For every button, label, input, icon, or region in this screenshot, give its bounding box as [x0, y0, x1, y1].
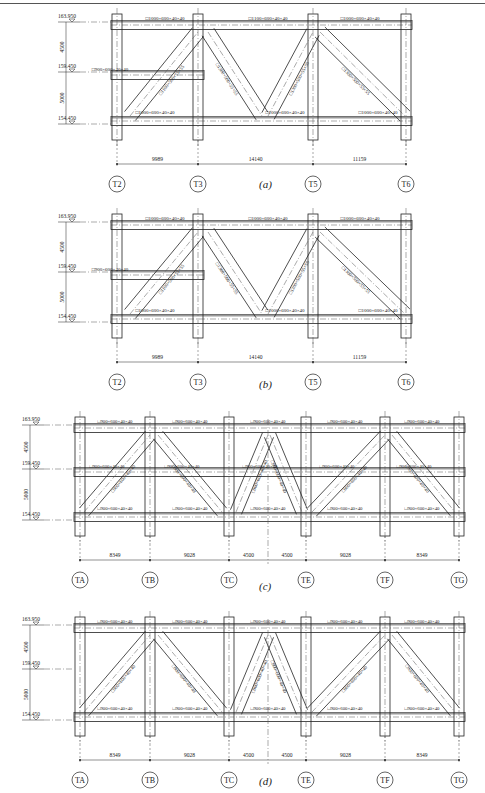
axis-marker-T6: T6: [398, 176, 414, 192]
axis-marker-TC: TC: [221, 772, 237, 788]
top-chord-label: □900×600×40×40: [98, 419, 134, 424]
axis-marker-TC: TC: [221, 572, 237, 588]
top-chord-label: □1100×600×40×40: [249, 16, 288, 21]
top-chord-label: □900×600×40×40: [251, 619, 287, 624]
span-dimension: 9989: [152, 156, 163, 162]
caption-b: (b): [259, 378, 272, 390]
axis-label: T3: [194, 180, 203, 189]
axis-label: TF: [380, 776, 390, 785]
span-dimension: 9989: [152, 354, 163, 360]
bottom-chord-label: □900×600×40×40: [405, 506, 441, 511]
elevation-label: 154.450: [22, 511, 40, 517]
mid-chord-label: □900×600×40×40: [165, 464, 201, 469]
elevation-label: 159.450: [58, 63, 76, 69]
axis-marker-T2: T2: [109, 176, 125, 192]
elevation-marker-icon: [69, 269, 75, 272]
top-chord-label: □1000×600×40×40: [249, 216, 288, 221]
top-chord-label: □900×600×40×40: [405, 619, 441, 624]
axis-marker-TE: TE: [298, 772, 314, 788]
axis-label: T2: [113, 378, 122, 387]
top-chord-label: □1000×600×40×40: [341, 216, 380, 221]
level-dimension: 5000: [59, 92, 65, 103]
caption-a: (a): [259, 178, 272, 190]
axis-marker-TB: TB: [142, 572, 158, 588]
span-dimension: 9028: [340, 552, 351, 558]
axis-marker-TF: TF: [377, 772, 393, 788]
axis-marker-T3: T3: [190, 374, 206, 390]
top-chord-label: □900×600×40×40: [405, 419, 441, 424]
bottom-chord-label: □900×600×40×40: [251, 506, 287, 511]
level-dimension: 5000: [23, 689, 29, 700]
diagonal-label: □900×600×40×40: [269, 659, 287, 694]
top-chord-label: □900×600×40×40: [328, 619, 364, 624]
elevation-label: 163.950: [22, 616, 40, 622]
elevation-label: 154.450: [22, 711, 40, 717]
elevation-label: 159.450: [58, 263, 76, 269]
elevation-label: 159.450: [22, 660, 40, 666]
level-dimension: 5000: [59, 291, 65, 302]
span-dimension: 4500: [243, 552, 254, 558]
axis-marker-TB: TB: [142, 772, 158, 788]
level-dimension: 4500: [23, 441, 29, 452]
diagonal-label: □1300×500×55×55: [215, 62, 240, 97]
axis-label: TG: [454, 576, 465, 585]
level-dimension: 4500: [59, 41, 65, 52]
axis-label: TC: [224, 576, 234, 585]
elevation-marker-icon: [69, 319, 75, 322]
axis-label: TA: [75, 576, 85, 585]
elevation-marker-icon: [33, 717, 39, 720]
bottom-chord-label: □900×600×40×40: [173, 506, 209, 511]
elevation-marker-icon: [33, 666, 39, 669]
top-chord-label: □900×600×40×40: [173, 619, 209, 624]
elevation-marker-icon: [33, 422, 39, 425]
truss-elevation-drawings: 163.950159.450154.45045005000□1000×600×4…: [0, 0, 485, 793]
span-dimension: 9028: [184, 552, 195, 558]
axis-marker-TA: TA: [72, 772, 88, 788]
bottom-chord-label: □1000×600×40×40: [266, 308, 305, 313]
axis-label: TG: [454, 776, 465, 785]
elevation-label: 159.450: [22, 460, 40, 466]
elevation-label: 163.950: [22, 416, 40, 422]
level-dimension: 5000: [23, 489, 29, 500]
figure-b: 163.950159.450154.45045005000□1000×600×4…: [58, 208, 414, 390]
caption-c: (c): [259, 580, 271, 592]
span-dimension: 8349: [110, 752, 121, 758]
bottom-chord-label: □900×600×40×40: [328, 506, 364, 511]
top-chord-label: □900×600×40×40: [328, 419, 364, 424]
bottom-chord-label: □1000×600×40×40: [266, 110, 305, 115]
bottom-chord-label: □900×600×40×40: [405, 706, 441, 711]
mid-chord-label: □900×600×40×40: [90, 464, 126, 469]
axis-label: T6: [402, 180, 411, 189]
axis-label: T3: [194, 378, 203, 387]
figure-d: 163.950159.450154.45045005000□900×600×40…: [22, 611, 467, 788]
span-dimension: 4500: [282, 752, 293, 758]
axis-marker-TA: TA: [72, 572, 88, 588]
diagonal-label: □1300×500×55×55: [288, 260, 311, 296]
axis-marker-TG: TG: [451, 772, 467, 788]
axis-label: TA: [75, 776, 85, 785]
elevation-label: 163.950: [58, 13, 76, 19]
span-dimension: 8349: [417, 752, 428, 758]
caption-d: (d): [259, 775, 272, 787]
axis-marker-T2: T2: [109, 374, 125, 390]
mid-chord-label: □900×600×40×40: [92, 267, 129, 272]
elevation-marker-icon: [69, 121, 75, 124]
span-dimension: 9028: [340, 752, 351, 758]
bottom-chord-label: □900×600×40×40: [98, 706, 134, 711]
axis-marker-T5: T5: [305, 374, 321, 390]
span-dimension: 4500: [243, 752, 254, 758]
axis-marker-TF: TF: [377, 572, 393, 588]
span-dimension: 14140: [249, 354, 263, 360]
diagonal-label: □1300×500×55×55: [215, 261, 240, 295]
axis-marker-T3: T3: [190, 176, 206, 192]
axis-marker-TE: TE: [298, 572, 314, 588]
axis-label: TE: [301, 776, 311, 785]
elevation-marker-icon: [33, 466, 39, 469]
diagonal-label: □1300×500×55×55: [288, 60, 310, 96]
elevation-label: 154.450: [58, 115, 76, 121]
axis-label: T2: [113, 180, 122, 189]
diagonal-label: □1100×500×55×55: [158, 263, 186, 295]
span-dimension: 8349: [110, 552, 121, 558]
mid-chord-label: □900×600×40×40: [92, 67, 129, 72]
axis-label: TC: [224, 776, 234, 785]
